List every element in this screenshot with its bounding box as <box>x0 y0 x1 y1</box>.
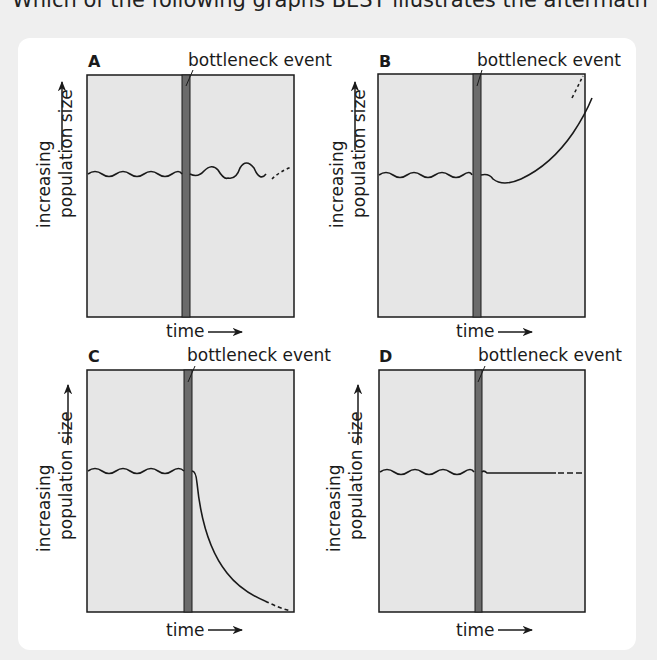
xlabel-a: time <box>166 321 204 341</box>
bottleneck-bar-a <box>182 75 190 317</box>
panel-c: C bottleneck event increasing population… <box>34 345 331 640</box>
ylabel-d-line2: population size <box>346 411 366 540</box>
panel-letter-b: B <box>379 52 391 71</box>
ylabel-b-line1: increasing <box>327 141 347 228</box>
xlabel-b: time <box>456 321 494 341</box>
panel-letter-a: A <box>88 52 101 71</box>
panel-b: B bottleneck event increasing population… <box>327 50 621 341</box>
ylabel-a-line1: increasing <box>34 141 54 228</box>
bottleneck-label-d: bottleneck event <box>478 345 622 365</box>
bottleneck-bar-d <box>475 370 482 612</box>
ylabel-d-line1: increasing <box>324 465 344 552</box>
bottleneck-bar-b <box>473 74 481 317</box>
xlabel-c: time <box>166 620 204 640</box>
panel-letter-d: D <box>379 347 392 366</box>
ylabel-a-line2: population size <box>56 89 76 218</box>
panel-letter-c: C <box>88 347 100 366</box>
bottleneck-bar-c <box>184 370 192 612</box>
panel-d: D bottleneck event increasing population… <box>324 345 622 640</box>
panel-a: A bottleneck event increasing population… <box>34 50 332 341</box>
bottleneck-label-b: bottleneck event <box>477 50 621 70</box>
graphs-figure: A bottleneck event increasing population… <box>0 0 657 660</box>
ylabel-c-line1: increasing <box>34 465 54 552</box>
xlabel-d: time <box>456 620 494 640</box>
bottleneck-label-c: bottleneck event <box>187 345 331 365</box>
ylabel-c-line2: population size <box>56 411 76 540</box>
bottleneck-label-a: bottleneck event <box>188 50 332 70</box>
ylabel-b-line2: population size <box>349 89 369 218</box>
